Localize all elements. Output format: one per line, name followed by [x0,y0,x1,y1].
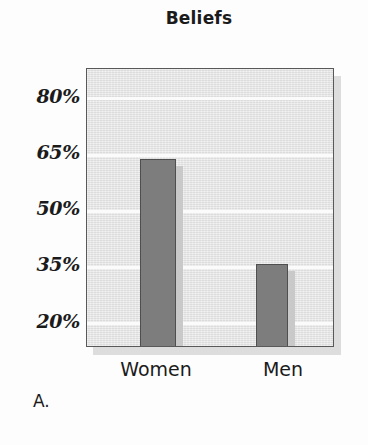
x-axis-tick-label-women: Women [96,358,216,380]
plot-paper-texture [87,69,333,346]
plot-area [86,68,334,347]
gridline-20 [87,322,333,325]
y-tick-label: 65% [8,141,80,163]
gridline-50 [87,210,333,213]
y-axis-tick-labels: 20%35%50%65%80% [4,68,80,347]
gridline-80 [87,97,333,100]
y-tick-label: 50% [8,197,80,219]
x-axis-tick-label-men: Men [228,358,338,380]
chart-title: Beliefs [0,8,368,28]
gridline-65 [87,154,333,157]
chart-figure: Beliefs 20%35%50%65%80% Women Men A. [0,0,368,445]
y-tick-label: 35% [8,253,80,275]
panel-letter-label: A. [33,391,50,411]
bar-men [256,264,288,347]
gridline-35 [87,266,333,269]
bar-women [140,159,176,347]
y-tick-label: 20% [8,310,80,332]
y-tick-label: 80% [8,85,80,107]
